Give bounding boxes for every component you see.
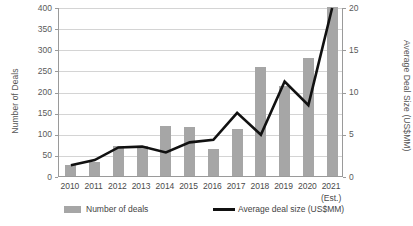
line-series [59,8,344,177]
legend-bar-swatch-icon [64,206,81,213]
y-axis-right-tick-label: 15 [349,45,375,55]
y-axis-right-tick-label: 10 [349,87,375,97]
legend-item-number-of-deals: Number of deals [64,204,148,214]
y-axis-left-tick-mark [55,177,58,178]
x-axis-tick-label: 2021 [315,181,347,191]
y-axis-left-tick-label: 50 [26,150,52,160]
x-axis-tick-sublabel: (Est.) [315,193,347,203]
y-axis-right-tick-label: 5 [349,129,375,139]
y-axis-right-tick-label: 20 [349,3,375,13]
average-deal-size-line [71,8,332,165]
legend-label-line: Average deal size (US$MM) [238,204,344,214]
y-axis-left-tick-label: 100 [26,129,52,139]
legend-line-swatch-icon [213,208,235,211]
y-axis-left-tick-label: 150 [26,108,52,118]
legend-label-bars: Number of deals [86,204,148,214]
y-axis-left-tick-label: 400 [26,3,52,13]
y-axis-right-tick-mark [343,177,346,178]
y-axis-left-title: Number of Deals [10,56,20,146]
y-axis-left-tick-label: 0 [26,172,52,182]
y-axis-left-tick-label: 350 [26,24,52,34]
chart-container: Number of Deals Average Deal Size (US$MM… [0,0,413,226]
plot-area [58,8,343,177]
y-axis-right-title: Average Deal Size (US$MM) [402,40,412,150]
y-axis-left-tick-label: 300 [26,45,52,55]
legend-item-average-deal-size: Average deal size (US$MM) [213,204,344,214]
y-axis-right-tick-label: 0 [349,172,375,182]
chart-legend: Number of deals Average deal size (US$MM… [58,203,348,221]
y-axis-left-tick-label: 250 [26,66,52,76]
y-axis-left-tick-label: 200 [26,87,52,97]
